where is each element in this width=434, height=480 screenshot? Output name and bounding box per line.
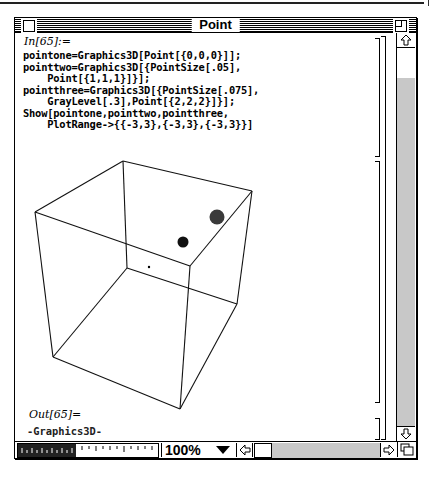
arrow-up-icon[interactable] <box>397 33 415 47</box>
magnification-ruler[interactable] <box>17 443 159 458</box>
arrow-left-icon[interactable] <box>237 443 253 457</box>
output-value: -Graphics3D- <box>27 425 102 437</box>
point-one <box>178 237 189 248</box>
close-box-icon[interactable] <box>23 20 35 32</box>
magnification-menu[interactable]: 100% <box>161 443 237 457</box>
resize-icon[interactable] <box>397 442 416 457</box>
group-cell-bracket[interactable] <box>381 36 386 440</box>
code-line: pointone=Graphics3D[Point[{0,0,0}]]; <box>23 50 259 62</box>
code-line: GrayLevel[.3],Point[{2,2,2}]}]; <box>23 96 259 108</box>
notebook-window: Point In[65]:= pointone=Graphics3D[Point… <box>14 17 417 459</box>
window-title: Point <box>191 18 240 32</box>
point-origin <box>148 266 150 268</box>
graphic-cell-bracket[interactable] <box>375 161 380 403</box>
code-line: Point[{1,1,1}]}]; <box>23 73 259 85</box>
input-cell[interactable]: pointone=Graphics3D[Point[{0,0,0}]]; poi… <box>23 50 259 131</box>
magnification-value: 100% <box>165 443 201 457</box>
zoom-box-icon[interactable] <box>395 20 407 32</box>
arrow-down-icon[interactable] <box>397 426 415 441</box>
input-cell-bracket[interactable] <box>375 38 380 157</box>
output-label: Out[65]= <box>29 408 81 421</box>
cube-plot <box>15 160 315 430</box>
code-line: PlotRange->{{-3,3},{-3,3},{-3,3}}] <box>23 119 259 131</box>
page-corner-mark <box>425 0 429 6</box>
horizontal-scroll-thumb[interactable] <box>254 443 272 458</box>
arrow-right-icon[interactable] <box>380 443 397 457</box>
bottom-bar: 100% <box>15 441 416 458</box>
vertical-scrollbar[interactable] <box>396 33 416 441</box>
page-top-rule <box>0 2 424 4</box>
output-cell-bracket[interactable] <box>375 418 380 440</box>
vertical-scroll-track[interactable] <box>397 78 415 426</box>
notebook-content[interactable]: In[65]:= pointone=Graphics3D[Point[{0,0,… <box>15 33 396 441</box>
title-bar[interactable]: Point <box>15 18 416 33</box>
horizontal-scroll-track[interactable] <box>272 443 380 458</box>
graphics3d-output[interactable] <box>15 160 315 430</box>
input-label: In[65]:= <box>24 35 71 48</box>
vertical-scroll-thumb[interactable] <box>397 47 415 79</box>
triangle-down-icon <box>216 446 230 455</box>
ruler-ticks <box>18 444 158 457</box>
point-two <box>210 210 225 225</box>
